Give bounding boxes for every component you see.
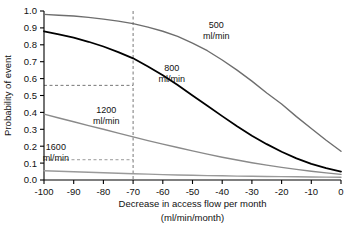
x-tick-label: -90 — [67, 186, 81, 197]
x-tick-label: -100 — [34, 186, 53, 197]
x-tick-label: -60 — [156, 186, 170, 197]
y-tick-label: 1.0 — [24, 5, 37, 16]
y-axis-title: Probability of event — [2, 55, 13, 136]
x-tick-label: -20 — [275, 186, 289, 197]
probability-of-event-chart: 0.00.10.20.30.40.50.60.70.80.91.0-100-90… — [0, 0, 347, 230]
y-tick-label: 0.7 — [24, 56, 37, 67]
y-tick-label: 0.9 — [24, 22, 37, 33]
curve-500 — [44, 14, 341, 151]
x-tick-label: -40 — [215, 186, 229, 197]
x-tick-label: 0 — [338, 186, 343, 197]
y-tick-label: 0.8 — [24, 39, 37, 50]
x-tick-label: -30 — [245, 186, 259, 197]
curve-1200 — [44, 114, 341, 174]
curve-label-1200: 1200 — [96, 105, 116, 115]
y-tick-label: 0.2 — [24, 141, 37, 152]
figure-container: 0.00.10.20.30.40.50.60.70.80.91.0-100-90… — [0, 0, 347, 230]
x-tick-label: -50 — [186, 186, 200, 197]
curve-label-units-500: ml/min — [203, 31, 230, 41]
x-tick-label: -10 — [304, 186, 318, 197]
y-tick-label: 0.5 — [24, 90, 37, 101]
y-tick-label: 0.6 — [24, 73, 37, 84]
curve-1600 — [44, 171, 341, 178]
y-tick-label: 0.3 — [24, 124, 37, 135]
curve-label-units-1600: ml/min — [43, 153, 70, 163]
y-tick-label: 0.4 — [24, 107, 37, 118]
x-tick-label: -80 — [97, 186, 111, 197]
curve-label-800: 800 — [164, 63, 179, 73]
x-tick-label: -70 — [126, 186, 140, 197]
curve-label-units-1200: ml/min — [93, 116, 120, 126]
x-axis-title-units: (ml/min/month) — [161, 212, 224, 223]
curve-label-1600: 1600 — [46, 142, 66, 152]
y-tick-label: 0.1 — [24, 158, 37, 169]
curve-label-500: 500 — [209, 20, 224, 30]
x-axis-title: Decrease in access flow per month — [119, 198, 267, 209]
y-tick-label: 0.0 — [24, 174, 37, 185]
curve-label-units-800: ml/min — [158, 74, 185, 84]
